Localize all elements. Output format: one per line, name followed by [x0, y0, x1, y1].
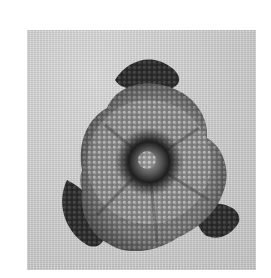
flower-center	[115, 128, 183, 196]
flower-illustration	[27, 30, 256, 270]
beaded-flower-photo	[27, 30, 256, 270]
